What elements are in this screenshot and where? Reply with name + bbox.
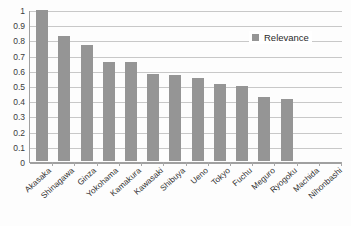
bar-slot [120,11,142,161]
chart-legend: Relevance [249,31,312,44]
bar [258,97,270,161]
x-axis-tick-label: Tokyo [210,166,232,187]
bar-slot [75,11,97,161]
legend-label: Relevance [264,32,309,43]
x-axis-labels: AkasakaShinagawaGinzaYokohamaKamakuraKaw… [30,166,343,224]
bar [169,75,181,161]
bar-slot [142,11,164,161]
y-axis-tick-label: 0 [0,158,25,168]
bar [81,45,93,161]
bar [147,74,159,161]
bar [36,10,48,161]
bar [214,84,226,161]
y-axis-tick-label: 0.8 [0,36,25,46]
bar [125,62,137,161]
y-axis-tick-label: 0.3 [0,112,25,122]
y-axis-tick-label: 1 [0,6,25,16]
y-axis-tick-label: 0.5 [0,82,25,92]
y-axis-tick-label: 0.1 [0,143,25,153]
bar-slot [98,11,120,161]
bar-slot [187,11,209,161]
bar [192,78,204,161]
bar [103,62,115,161]
bar [58,36,70,161]
bar-slot [209,11,231,161]
y-axis-tick-label: 0.2 [0,128,25,138]
bar-slot [31,11,53,161]
x-axis-tick-label: Ueno [189,166,210,186]
y-axis-tick-label: 0.4 [0,97,25,107]
relevance-bar-chart: 10.90.80.70.60.50.40.30.20.10 AkasakaShi… [0,0,351,226]
bar-slot [164,11,186,161]
bar [236,86,248,162]
bar-slot [53,11,75,161]
bar [281,99,293,161]
legend-swatch-icon [252,34,259,41]
y-axis-tick-label: 0.7 [0,52,25,62]
bar-slot [320,11,342,161]
y-axis-tick-label: 0.9 [0,21,25,31]
y-axis-tick-label: 0.6 [0,67,25,77]
